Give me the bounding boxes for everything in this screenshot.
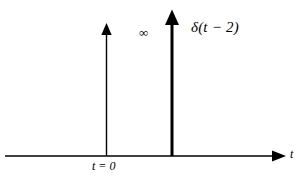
impulse-arrowhead-icon <box>165 10 179 26</box>
infinity-amplitude-label: ∞ <box>139 26 148 39</box>
time-axis-label: t <box>290 148 293 160</box>
vertical-axis-arrowhead-icon <box>101 23 111 35</box>
time-axis-arrowhead-icon <box>272 151 286 162</box>
origin-label: t = 0 <box>92 160 115 172</box>
figure-canvas <box>0 0 301 185</box>
delta-function-label: δ(t − 2) <box>191 20 239 35</box>
impulse-function-figure: δ(t − 2) ∞ t = 0 t <box>0 0 301 185</box>
